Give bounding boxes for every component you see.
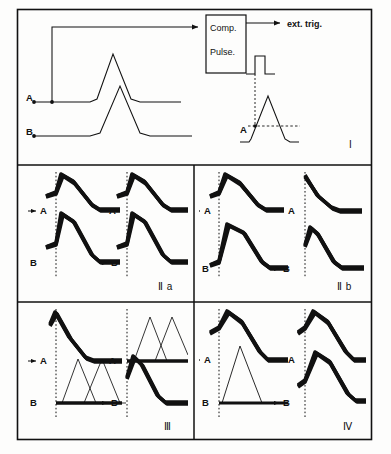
panel-IIb-right-label-A: A: [288, 205, 295, 216]
panel-I-number: I: [349, 139, 352, 150]
panel-IIb: A B A B: [192, 172, 364, 278]
panel-I: Comp. Pulse. ext. trig. A B A I: [26, 15, 352, 150]
panel-IIb-right-trace-B: [305, 227, 364, 269]
panel-IIb-left-label-B: B: [202, 263, 209, 274]
panel-IV-left-label-A: A: [204, 354, 211, 365]
panel-I-comparator-label: Comp.: [210, 23, 237, 33]
panel-IIa-right-trace-B: [117, 213, 188, 263]
panel-I-signal-A: [34, 54, 181, 102]
panel-I-threshold-signal: [240, 96, 299, 142]
panel-IV-left-label-B: B: [202, 397, 209, 408]
panel-I-trigger-feed-line: [52, 27, 198, 102]
figure-frame: [18, 10, 372, 440]
panel-IIa-left-label-A: A: [40, 205, 47, 216]
panel-I-threshold-label-A: A: [240, 124, 247, 135]
panel-IIb-left-label-A: A: [204, 205, 211, 216]
panel-IV-right-label-B: B: [283, 397, 290, 408]
panel-IIb-number: Ⅱ b: [337, 281, 352, 292]
panel-III-right-trace-A: [127, 317, 188, 361]
panel-III-right-trace-B: [127, 356, 188, 404]
panel-IV-number: Ⅳ: [343, 421, 353, 432]
panel-IIa-right-label-B: B: [111, 257, 118, 268]
panel-III-left-label-A: A: [40, 355, 47, 366]
panel-IIa-right-trace-A: [117, 174, 188, 211]
panel-I-pulse-label: Pulse.: [210, 47, 235, 57]
panel-I-pulse-waveform: [246, 56, 275, 74]
figure-root: Comp. Pulse. ext. trig. A B A I: [0, 0, 391, 454]
panel-IIa-number: Ⅱ a: [158, 281, 173, 292]
panel-I-signal-B: [34, 86, 192, 136]
panel-III-left-label-B: B: [30, 397, 37, 408]
panel-IIa-left-label-B: B: [30, 257, 37, 268]
panel-III-right-label-B: B: [111, 397, 118, 408]
panel-IV-left-trace-A: [210, 311, 288, 361]
panel-IIa: A B A B: [28, 172, 188, 278]
panel-III: A B A B: [28, 309, 188, 417]
panel-I-label-A: A: [26, 92, 33, 103]
panel-IIb-left-trace-A: [210, 174, 284, 211]
panel-IIb-right-trace-A: [305, 175, 362, 212]
panel-I-ext-trig-label: ext. trig.: [287, 19, 322, 29]
panel-IIb-right-label-B: B: [283, 263, 290, 274]
panel-IV: A B A B: [192, 309, 366, 417]
panel-III-right-label-A: A: [109, 355, 116, 366]
panel-IIa-right-label-A: A: [109, 205, 116, 216]
panel-I-label-B: B: [26, 126, 33, 137]
panel-IV-right-label-A: A: [288, 354, 295, 365]
panel-IIb-left-trace-B: [210, 224, 288, 269]
panel-IV-right-trace-A: [298, 311, 366, 361]
panel-IIa-left-trace-B: [46, 213, 120, 263]
panel-IV-left-trace-B: [219, 346, 288, 403]
panel-III-number: Ⅲ: [164, 421, 171, 432]
